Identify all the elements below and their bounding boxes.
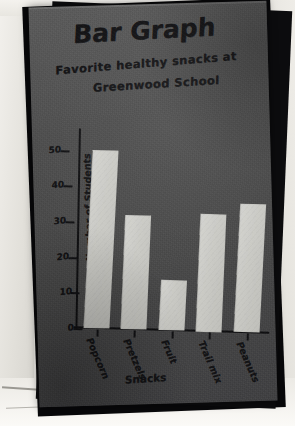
poster-surface: Bar Graph Favorite healthy snacks at Gre… [28,1,277,407]
y-axis-tick-label: 30 [54,215,67,226]
x-axis-category-label: Peanuts [234,341,262,384]
y-axis-tick [66,221,75,223]
y-axis-tick-label: 10 [59,286,72,297]
x-axis-tick [209,333,211,340]
y-axis-tick-label: 50 [49,144,62,155]
bar [196,214,227,332]
y-axis-tick [73,328,82,330]
plot-area: Number of Students 01020304050 PopcornPr… [28,1,277,407]
x-axis-tick [171,332,173,339]
bar [121,215,152,330]
y-axis-tick-label: 0 [67,322,73,333]
x-axis-category-label: Popcorn [84,337,112,380]
photo-of-bar-graph-poster: Bar Graph Favorite healthy snacks at Gre… [0,0,295,426]
y-axis-tick [68,257,77,259]
x-axis-tick [96,330,98,337]
x-axis-category-label: Fruit [159,339,180,365]
x-axis-tick [134,331,136,338]
y-axis-tick-label: 40 [51,179,64,190]
bar [233,204,266,333]
x-axis-category-label: Trail mix [197,340,226,385]
bar [158,280,187,331]
y-axis-tick-label: 20 [56,251,69,262]
y-axis-line [75,128,80,328]
x-axis-label: Snacks [125,371,167,386]
poster-board: Bar Graph Favorite healthy snacks at Gre… [28,1,277,407]
y-axis-tick [60,150,69,152]
x-axis-tick [247,334,249,341]
